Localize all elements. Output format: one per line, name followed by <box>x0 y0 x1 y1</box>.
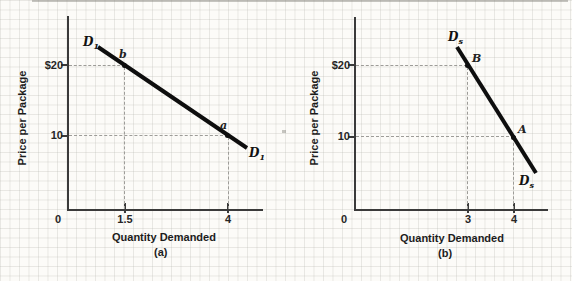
curve-label-ds-top: Ds <box>448 31 463 45</box>
point-b-label: b <box>119 49 127 60</box>
chart-panel-a: b a D1 D1 $20 10 0 1.5 4 Price per Packa… <box>0 0 286 281</box>
y-tick-20: $20 <box>316 59 350 72</box>
y-tick-10: 10 <box>29 129 63 142</box>
y-tick-10: 10 <box>316 130 350 143</box>
point-b-dot <box>122 63 127 68</box>
textbook-demand-figure: b a D1 D1 $20 10 0 1.5 4 Price per Packa… <box>0 0 572 281</box>
x-tick-1-5: 1.5 <box>111 213 139 226</box>
curve-label-ds-bottom: Ds <box>519 175 534 189</box>
origin-label: 0 <box>336 213 352 226</box>
point-A-dot <box>511 135 516 140</box>
x-axis-title: Quantity Demanded <box>112 231 216 243</box>
point-a-dot <box>225 133 230 138</box>
point-a-label: a <box>220 120 227 131</box>
x-tick-3: 3 <box>456 213 480 226</box>
curve-label-d1-top: D1 <box>83 36 99 50</box>
x-tick-4: 4 <box>216 213 240 226</box>
point-A-label: A <box>518 124 527 135</box>
x-axis-title: Quantity Demanded <box>400 232 504 244</box>
y-axis-title: Price per Package <box>16 66 28 170</box>
y-tick-20: $20 <box>29 59 63 72</box>
panel-caption: (a) <box>154 246 167 258</box>
origin-label: 0 <box>50 213 66 226</box>
x-tick-4: 4 <box>502 213 526 226</box>
chart-panel-b: B A Ds Ds $20 10 0 3 4 Price per Package… <box>286 0 572 281</box>
point-B-dot <box>465 63 470 68</box>
panel-caption: (b) <box>438 247 452 259</box>
curve-label-d1-bottom: D1 <box>249 147 265 161</box>
point-B-label: B <box>472 53 481 64</box>
y-axis-title: Price per Package <box>308 66 320 170</box>
